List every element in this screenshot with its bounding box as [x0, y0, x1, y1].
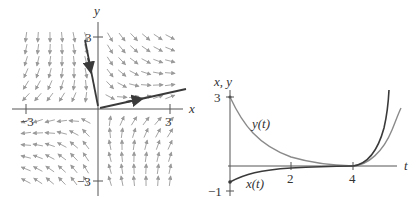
time-plot: 2 4 3 −1 x, y t y(t) x(t) [208, 74, 408, 199]
field-arrow-icon [21, 156, 31, 158]
field-arrow-icon [118, 83, 127, 88]
field-arrow-icon [109, 116, 110, 126]
y-tick-label-neg1: −1 [208, 184, 222, 199]
field-arrow-icon [133, 140, 134, 150]
field-arrow-icon [142, 59, 151, 64]
field-arrow-icon [144, 128, 148, 137]
field-arrow-icon [169, 164, 171, 174]
field-arrow-icon [107, 33, 112, 42]
field-arrow-icon [69, 121, 79, 122]
field-arrow-icon [70, 142, 78, 148]
field-arrow-icon [57, 132, 67, 134]
field-arrow-icon [33, 144, 43, 146]
field-arrow-icon [45, 143, 54, 146]
field-arrow-icon [34, 167, 43, 172]
field-arrow-icon [157, 152, 159, 162]
y-tick-label-neg3: −3 [77, 174, 91, 189]
field-arrow-icon [23, 81, 28, 89]
t-tick-label-4: 4 [349, 171, 356, 186]
field-arrow-icon [85, 92, 86, 102]
field-arrow-icon [156, 140, 159, 149]
y-curve-label: y(t) [250, 116, 270, 131]
field-arrow-icon [45, 133, 55, 134]
field-arrow-icon [37, 44, 38, 54]
field-arrow-icon [36, 68, 39, 77]
y-curve [230, 97, 401, 166]
field-arrow-icon [121, 176, 123, 186]
figure-canvas: −3 3 3 −3 x y 2 4 3 −1 x, y t [0, 0, 420, 204]
field-arrow-icon [83, 141, 89, 149]
field-arrow-icon [61, 68, 62, 78]
field-arrow-icon [109, 152, 111, 162]
field-arrow-icon [82, 119, 91, 124]
field-arrow-icon [46, 178, 54, 184]
field-arrow-icon [24, 68, 28, 77]
field-arrow-icon [25, 44, 27, 54]
field-arrow-icon [37, 56, 39, 66]
field-arrow-icon [110, 128, 111, 138]
field-arrow-icon [107, 57, 113, 65]
field-arrow-icon [71, 153, 78, 160]
x-curve-label: x(t) [245, 176, 264, 191]
field-arrow-icon [121, 164, 123, 174]
field-arrow-icon [119, 45, 125, 53]
field-arrow-icon [70, 131, 79, 136]
field-arrow-icon [165, 47, 174, 51]
field-arrow-icon [142, 46, 150, 52]
field-arrow-icon [25, 56, 28, 66]
field-arrow-icon [133, 128, 136, 138]
field-arrow-icon [142, 34, 150, 40]
field-arrow-icon [36, 81, 41, 90]
field-arrow-icon [153, 72, 163, 74]
field-arrow-icon [120, 116, 124, 125]
field-arrow-icon [121, 128, 122, 138]
field-arrow-icon [73, 80, 74, 90]
field-arrow-icon [33, 119, 43, 122]
field-arrow-icon [109, 164, 112, 174]
phase-portrait: −3 3 3 −3 x y [12, 3, 195, 196]
field-arrow-icon [122, 152, 123, 162]
field-arrow-icon [83, 153, 89, 161]
trajectory-outgoing-arrow [126, 100, 138, 103]
y-axis-label: y [92, 3, 100, 18]
field-arrow-icon [48, 80, 52, 89]
field-arrow-icon [146, 164, 147, 174]
field-arrow-icon [158, 176, 159, 186]
field-arrow-icon [131, 117, 136, 125]
field-arrow-icon [49, 68, 51, 78]
field-arrow-icon [21, 145, 31, 146]
field-arrow-icon [165, 73, 175, 74]
field-arrow-icon [157, 164, 158, 174]
field-arrow-icon [61, 80, 64, 90]
field-arrow-icon [129, 96, 139, 97]
field-arrow-icon [165, 95, 174, 99]
vertical-axis-label: x, y [213, 74, 232, 89]
field-arrow-icon [62, 32, 63, 42]
field-arrow-icon [33, 155, 42, 158]
field-arrow-icon [168, 140, 172, 149]
field-arrow-icon [86, 80, 87, 90]
field-arrow-icon [25, 32, 26, 42]
field-arrow-icon [83, 165, 88, 174]
field-arrow-icon [155, 117, 162, 125]
field-arrow-icon [109, 176, 112, 186]
field-arrow-icon [34, 178, 42, 184]
field-arrow-icon [118, 70, 126, 76]
y-start-point [228, 95, 231, 98]
field-arrow-icon [143, 117, 149, 125]
field-arrow-icon [154, 34, 162, 40]
field-arrow-icon [145, 152, 146, 162]
field-arrow-icon [109, 140, 111, 150]
field-arrow-icon [165, 60, 175, 62]
field-arrow-icon [130, 58, 138, 64]
field-arrow-icon [141, 71, 150, 74]
field-arrow-icon [153, 59, 162, 62]
field-arrow-icon [72, 92, 76, 101]
field-arrow-icon [21, 167, 30, 171]
x-tick-label-neg3: −3 [20, 114, 34, 129]
field-arrow-icon [141, 85, 151, 86]
field-arrow-icon [130, 71, 139, 76]
y-tick-label-3: 3 [214, 90, 221, 105]
field-arrow-icon [117, 97, 127, 98]
x-curve [230, 90, 389, 182]
